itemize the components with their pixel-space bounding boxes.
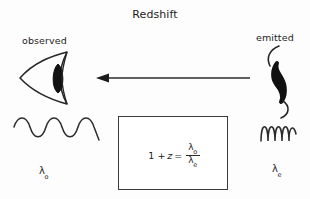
equation-box: 1 + z = λo λe — [118, 116, 228, 190]
equation-variable-z: z — [167, 150, 172, 161]
equation-numerator: λo — [186, 143, 199, 155]
galaxy-icon — [268, 46, 288, 118]
equation-lhs: 1 + — [148, 150, 165, 161]
page-title: Redshift — [0, 9, 310, 20]
long-wavelength-wave-icon — [14, 118, 99, 140]
lambda-emitted-label: λe — [272, 164, 282, 177]
equation-denominator: λe — [186, 156, 199, 168]
short-wavelength-wave-icon — [261, 127, 296, 141]
denominator-subscript: e — [193, 161, 197, 169]
equation-fraction: λo λe — [186, 143, 199, 168]
observed-label: observed — [22, 36, 67, 46]
numerator-subscript: o — [193, 148, 197, 156]
lambda-observed-subscript: o — [45, 173, 49, 181]
eye-icon — [20, 52, 67, 104]
left-arrow-icon — [96, 74, 250, 83]
lambda-observed-label: λo — [39, 166, 49, 179]
lambda-emitted-subscript: e — [278, 171, 282, 179]
emitted-label: emitted — [256, 33, 294, 43]
redshift-equation: 1 + z = λo λe — [119, 143, 229, 168]
equation-equals: = — [174, 150, 182, 161]
